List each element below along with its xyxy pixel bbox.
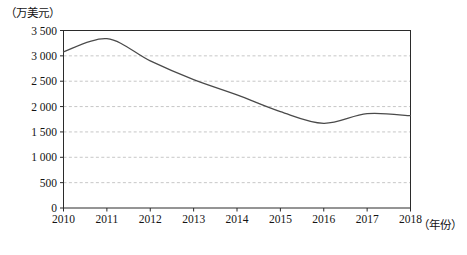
x-tick-label: 2010 — [52, 213, 75, 225]
x-tick-label: 2013 — [182, 213, 205, 225]
x-tick-label: 2012 — [139, 213, 162, 225]
x-axis-tick-labels: 201020112012201320142015201620172018 — [0, 213, 467, 233]
x-tick-label: 2016 — [312, 213, 335, 225]
plot-frame — [64, 31, 411, 209]
x-tick-label: 2011 — [96, 213, 119, 225]
x-axis-unit-label: （年份） — [418, 216, 462, 232]
x-tick-label: 2017 — [356, 213, 379, 225]
x-tick-label: 2014 — [226, 213, 249, 225]
gridlines — [64, 56, 411, 183]
line-chart: （万美元） 05001 0001 5002 0002 5003 0003 500… — [0, 0, 467, 255]
x-tick-label: 2015 — [269, 213, 292, 225]
y-axis-tick-marks — [60, 31, 64, 209]
x-axis-tick-marks — [64, 208, 411, 212]
